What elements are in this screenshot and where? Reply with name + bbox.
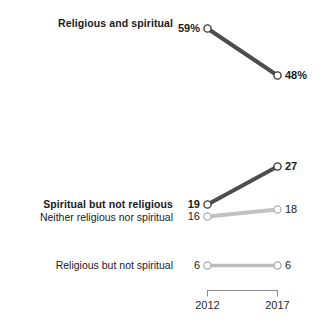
value-label-2017-religious-but-not-spiritual: 6 (285, 259, 291, 271)
value-label-2017-spiritual-but-not-religious: 27 (285, 160, 297, 172)
marker-2012-spiritual-but-not-religious (204, 201, 211, 208)
category-label-spiritual-but-not-religious: Spiritual but not religious (43, 198, 173, 210)
series-neither-religious-nor-spiritual (204, 206, 281, 220)
value-label-2012-religious-but-not-spiritual: 6 (170, 259, 200, 271)
series-religious-and-spiritual (204, 25, 281, 79)
marker-2012-religious-and-spiritual (204, 25, 211, 32)
x-axis-tick-2012: 2012 (191, 299, 224, 312)
slope-line-neither-religious-nor-spiritual (208, 210, 278, 217)
x-axis-tick-2017: 2017 (261, 299, 294, 312)
slope-line-spiritual-but-not-religious (208, 167, 278, 205)
marker-2012-religious-but-not-spiritual (204, 262, 211, 269)
slope-line-religious-and-spiritual (208, 29, 278, 76)
x-axis-bracket (208, 291, 278, 297)
value-label-2012-neither-religious-nor-spiritual: 16 (170, 210, 200, 222)
slope-chart: Religious and spiritual Spiritual but no… (0, 0, 325, 322)
value-label-2017-neither-religious-nor-spiritual: 18 (285, 203, 297, 215)
category-label-religious-and-spiritual: Religious and spiritual (58, 17, 173, 29)
value-label-2012-religious-and-spiritual: 59% (170, 22, 200, 34)
series-spiritual-but-not-religious (204, 163, 281, 208)
marker-2012-neither-religious-nor-spiritual (204, 213, 211, 220)
marker-2017-religious-and-spiritual (274, 72, 281, 79)
category-label-neither-religious-nor-spiritual: Neither religious nor spiritual (40, 211, 173, 223)
value-label-2012-spiritual-but-not-religious: 19 (170, 198, 200, 210)
category-label-religious-but-not-spiritual: Religious but not spiritual (56, 259, 173, 271)
series-religious-but-not-spiritual (204, 262, 281, 269)
marker-2017-religious-but-not-spiritual (274, 262, 281, 269)
chart-plot-area (0, 0, 325, 322)
value-label-2017-religious-and-spiritual: 48% (285, 69, 307, 81)
marker-2017-neither-religious-nor-spiritual (274, 206, 281, 213)
marker-2017-spiritual-but-not-religious (274, 163, 281, 170)
